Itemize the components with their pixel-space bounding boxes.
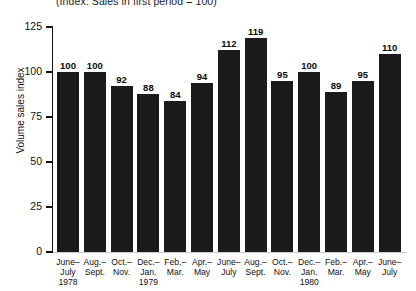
x-axis-tick-label-line: 1978 [51, 277, 85, 287]
bar [191, 83, 213, 252]
bar-value-label: 84 [155, 89, 195, 100]
bar [164, 101, 186, 252]
y-axis-tick-label: 50 [0, 155, 42, 167]
chart-subtitle: (Index: Sales in first period = 100) [56, 0, 356, 7]
x-axis-tick-label-line: June– [373, 257, 407, 267]
x-axis-tick-label-line: 1979 [131, 277, 165, 287]
bar-value-label: 100 [75, 60, 115, 71]
x-axis-tick-label-line: 1980 [292, 277, 326, 287]
bar-chart: (Index: Sales in first period = 100) Vol… [0, 0, 416, 291]
y-axis-tick-label: 125 [0, 20, 42, 32]
bar [298, 72, 320, 252]
bar-value-label: 119 [236, 26, 276, 37]
bar [218, 50, 240, 252]
bar [379, 54, 401, 252]
y-axis-tick-label: 25 [0, 200, 42, 212]
x-axis-tick-label-line: July [373, 267, 407, 277]
bar [137, 94, 159, 252]
bar [271, 81, 293, 252]
bar-value-label: 100 [289, 60, 329, 71]
bar [57, 72, 79, 252]
y-axis-tick-label: 0 [0, 245, 42, 257]
x-axis-tick-label: June–July [373, 257, 407, 277]
bar [352, 81, 374, 252]
y-axis-tick-label: 75 [0, 110, 42, 122]
bar-value-label: 94 [182, 71, 222, 82]
bar-value-label: 95 [343, 69, 383, 80]
bar [111, 86, 133, 252]
x-axis-baseline [52, 252, 406, 253]
bar-value-label: 112 [209, 38, 249, 49]
bar-value-label: 89 [316, 80, 356, 91]
bar-value-label: 110 [370, 42, 410, 53]
y-axis-tick-label: 100 [0, 65, 42, 77]
bar [84, 72, 106, 252]
bar [325, 92, 347, 252]
bars-container: 10010092888494112119951008995110 [52, 27, 416, 252]
